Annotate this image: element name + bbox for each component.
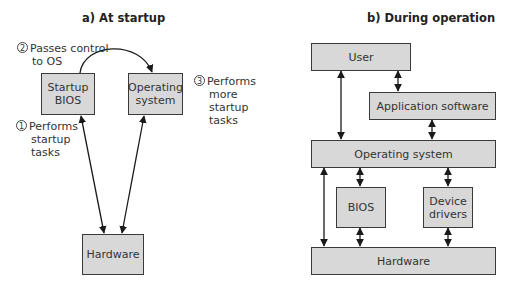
box-user: User [311,43,411,71]
box-hardware-b: Hardware [311,247,496,275]
step-number-3: 3 [194,75,205,86]
box-startup-bios: Startup BIOS [41,73,95,115]
panel-a-title: a) At startup [82,11,165,25]
note-performs-more: 3Performs more startup tasks [194,75,256,127]
box-hardware-a: Hardware [82,234,144,275]
arrow-os-hardware [122,116,144,233]
arrow-bios-hardware [81,116,104,233]
panel-b-title: b) During operation [367,11,495,25]
box-application-software: Application software [369,92,496,120]
box-operating-system-b: Operating system [311,140,496,168]
box-device-drivers: Device drivers [423,187,473,228]
box-operating-system-a: Operating system [128,73,183,115]
note-passes-control: 2Passes control to OS [17,42,108,68]
step-number-1: 1 [16,120,27,131]
box-bios: BIOS [336,187,386,228]
step-number-2: 2 [17,42,28,53]
note-performs-startup: 1Performs startup tasks [16,120,78,159]
